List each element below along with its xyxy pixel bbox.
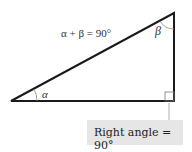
right-angle-marker — [165, 92, 174, 101]
alpha-label: α — [42, 88, 48, 100]
equation-label: α + β = 90° — [61, 27, 111, 39]
callout-text: Right angle = 90° — [94, 126, 183, 152]
beta-label: β — [155, 24, 161, 39]
right-angle-callout: Right angle = 90° — [87, 120, 183, 145]
beta-arc — [160, 21, 174, 29]
alpha-arc — [34, 89, 37, 101]
